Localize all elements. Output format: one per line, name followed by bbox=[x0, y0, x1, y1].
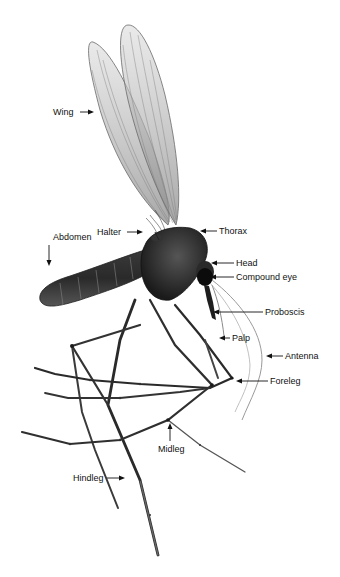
label-midleg: Midleg bbox=[158, 444, 185, 454]
thorax bbox=[141, 227, 207, 300]
label-antenna: Antenna bbox=[285, 351, 319, 361]
label-palp: Palp bbox=[232, 333, 250, 343]
label-halter: Halter bbox=[97, 227, 121, 237]
label-thorax: Thorax bbox=[219, 226, 247, 236]
label-head: Head bbox=[236, 258, 258, 268]
legs bbox=[22, 300, 245, 555]
label-compound-eye: Compound eye bbox=[236, 272, 297, 282]
wings bbox=[89, 25, 179, 236]
mosquito-anatomy-figure: Wing Halter Thorax Abdomen Head Compound… bbox=[0, 0, 340, 577]
label-abdomen: Abdomen bbox=[53, 232, 92, 242]
abdomen bbox=[40, 250, 158, 306]
mosquito-specimen-illustration bbox=[0, 0, 340, 577]
label-foreleg: Foreleg bbox=[270, 376, 301, 386]
label-wing: Wing bbox=[53, 107, 74, 117]
label-proboscis: Proboscis bbox=[265, 307, 305, 317]
label-hindleg: Hindleg bbox=[73, 473, 104, 483]
